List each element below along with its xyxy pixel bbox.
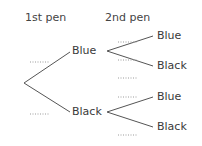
label-1st-blue: Blue [72,45,96,57]
branch-1st-black [24,83,70,112]
label-1st-black: Black [72,106,102,118]
branch-blue-blue [107,36,153,51]
tree-diagram: 1st pen 2nd pen Blue Black Blue Black Bl… [0,0,202,146]
branch-1st-blue [24,52,70,83]
header-second-pen: 2nd pen [105,12,150,24]
branch-black-blue [107,97,153,112]
label-black-black: Black [157,121,187,133]
branch-black-black [107,112,153,127]
label-blue-blue: Blue [157,30,181,42]
label-blue-black: Black [157,60,187,72]
branch-blue-black [107,51,153,66]
label-black-blue: Blue [157,91,181,103]
header-first-pen: 1st pen [25,12,66,24]
